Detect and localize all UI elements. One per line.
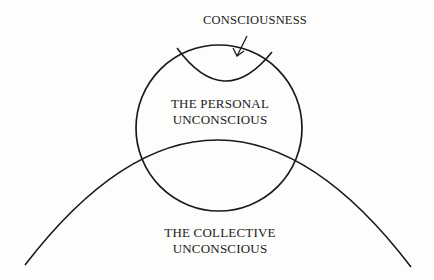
collective-unconscious-label: THE COLLECTIVE UNCONSCIOUS	[160, 225, 280, 257]
personal-unconscious-line-2: UNCONSCIOUS	[160, 112, 280, 128]
personal-unconscious-label: THE PERSONAL UNCONSCIOUS	[160, 96, 280, 128]
personal-unconscious-circle	[136, 45, 302, 211]
consciousness-label: CONSCIOUSNESS	[200, 12, 310, 28]
collective-unconscious-line-2: UNCONSCIOUS	[160, 241, 280, 257]
consciousness-text: CONSCIOUSNESS	[200, 12, 310, 28]
personal-unconscious-line-1: THE PERSONAL	[160, 96, 280, 112]
collective-unconscious-line-1: THE COLLECTIVE	[160, 225, 280, 241]
consciousness-arc	[177, 48, 272, 81]
